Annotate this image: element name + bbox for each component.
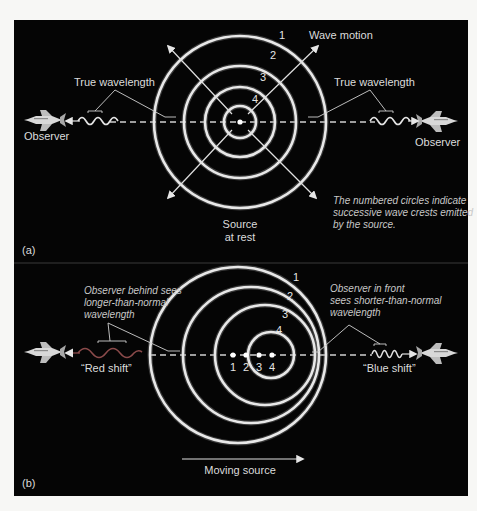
panel-a-tag: (a) xyxy=(22,244,35,256)
doppler-effect-figure: 1 2 3 4 Wave motion Observer True wavele… xyxy=(0,0,477,511)
moving-source-label: Moving source xyxy=(204,464,276,476)
front-line2: sees shorter-than-normal xyxy=(330,295,442,306)
circle-number-1: 1 xyxy=(279,29,285,41)
source-label-line2: at rest xyxy=(225,231,256,243)
circle-number-4: 4 xyxy=(276,324,282,336)
behind-line3: wavelength xyxy=(84,309,135,320)
behind-line2: longer-than-normal xyxy=(84,297,169,308)
circle-number-2: 2 xyxy=(270,49,276,61)
true-wavelength-right-label: True wavelength xyxy=(334,76,415,88)
red-shift-label: “Red shift” xyxy=(81,362,132,374)
front-line1: Observer in front xyxy=(330,283,406,294)
behind-line1: Observer behind sees xyxy=(84,285,182,296)
source-position-3: 3 xyxy=(256,361,262,373)
point-source-icon xyxy=(243,352,248,357)
caption-line1: The numbered circles indicate xyxy=(333,195,467,206)
front-line3: wavelength xyxy=(330,307,381,318)
source-label-line1: Source xyxy=(223,218,258,230)
wave-motion-label: Wave motion xyxy=(309,29,373,41)
observer-right-label: Observer xyxy=(415,136,461,148)
source-position-2: 2 xyxy=(243,361,249,373)
circle-number-3: 3 xyxy=(282,308,288,320)
true-wavelength-left-label: True wavelength xyxy=(74,76,155,88)
circle-number-1: 1 xyxy=(293,271,299,283)
caption-line2: successive wave crests emitted xyxy=(333,207,473,218)
caption-line3: by the source. xyxy=(333,219,396,230)
observer-left-label: Observer xyxy=(24,130,70,142)
blue-shift-label: “Blue shift” xyxy=(363,362,416,374)
circle-number-3: 3 xyxy=(260,71,266,83)
point-source-icon xyxy=(237,119,242,124)
circle-number-2: 2 xyxy=(287,290,293,302)
point-source-icon xyxy=(256,352,261,357)
panel-b-tag: (b) xyxy=(22,477,35,489)
point-source-icon xyxy=(269,352,274,357)
point-source-icon xyxy=(230,352,235,357)
source-position-1: 1 xyxy=(230,361,236,373)
source-position-4: 4 xyxy=(269,361,275,373)
circle-number-4: 4 xyxy=(252,93,258,105)
